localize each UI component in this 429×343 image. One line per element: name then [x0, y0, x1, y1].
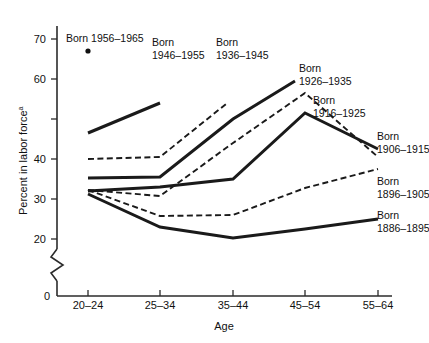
- series-label-born-1936-1945-line1: Born: [216, 36, 238, 48]
- y-tick-label-60: 60: [34, 73, 46, 85]
- y-axis-break-zigzag: [51, 249, 63, 281]
- x-tick-label-45-54: 45–54: [290, 299, 321, 311]
- y-axis-title-group: Percent in labor forcea: [17, 106, 29, 215]
- y-axis-title-text: Percent in labor force: [17, 110, 29, 215]
- series-point-born-1956-1965: [85, 48, 90, 53]
- series-label-born-1936-1945-line2: 1936–1945: [216, 49, 269, 61]
- series-label-born-1886-1895-line1: Born: [377, 209, 399, 221]
- series-label-born-1956-1965: Born 1956–1965: [66, 32, 144, 44]
- y-axis: 70 60 40 30 20 0: [34, 26, 63, 302]
- x-axis: 20–24 25–34 35–44 45–54 55–64 Age: [57, 290, 393, 332]
- series-label-born-1946-1955-line2: 1946–1955: [152, 49, 205, 61]
- x-tick-label-35-44: 35–44: [218, 299, 249, 311]
- x-tick-label-25-34: 25–34: [145, 299, 176, 311]
- series-label-born-1916-1925-line1: Born: [313, 94, 335, 106]
- y-tick-label-20: 20: [34, 233, 46, 245]
- x-tick-label-55-64: 55–64: [363, 299, 394, 311]
- series-line-born-1936-1945: [88, 104, 226, 159]
- x-axis-title: Age: [214, 320, 234, 332]
- y-axis-title: Percent in labor forcea: [17, 106, 29, 215]
- series-label-born-1896-1905-line1: Born: [377, 175, 399, 187]
- series-label-born-1906-1915-line1: Born: [377, 130, 399, 142]
- y-tick-label-0: 0: [44, 290, 50, 302]
- y-tick-label-70: 70: [34, 33, 46, 45]
- series-line-born-1906-1915: [88, 113, 378, 191]
- series-label-born-1906-1915-line2: 1906–1915: [377, 143, 429, 155]
- series-line-born-1946-1955: [88, 103, 160, 133]
- series-label-born-1886-1895-line2: 1886–1895: [377, 222, 429, 234]
- chart-canvas: 70 60 40 30 20 0 Percent in labor forcea…: [0, 0, 429, 343]
- y-tick-label-30: 30: [34, 193, 46, 205]
- y-tick-label-40: 40: [34, 153, 46, 165]
- labor-force-line-chart: 70 60 40 30 20 0 Percent in labor forcea…: [0, 0, 429, 343]
- series-label-born-1946-1955-line1: Born: [152, 36, 174, 48]
- series-label-born-1916-1925-line2: 1916–1925: [313, 107, 366, 119]
- y-axis-title-superscript: a: [17, 106, 24, 110]
- x-tick-label-20-24: 20–24: [73, 299, 104, 311]
- series-line-born-1926-1935: [88, 81, 295, 178]
- series-label-born-1926-1935-line1: Born: [299, 62, 321, 74]
- series-label-born-1896-1905-line2: 1896–1905: [377, 188, 429, 200]
- series-line-born-1886-1895: [88, 194, 378, 238]
- series-label-born-1926-1935-line2: 1926–1935: [299, 75, 352, 87]
